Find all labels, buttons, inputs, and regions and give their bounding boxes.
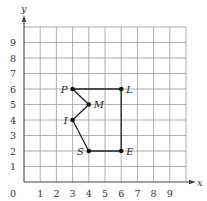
x-tick-label: 6 bbox=[118, 188, 124, 199]
y-tick-label: 6 bbox=[10, 84, 16, 95]
y-axis-arrow-icon bbox=[22, 15, 26, 22]
x-tick-labels: 123456789 bbox=[37, 188, 173, 199]
y-tick-labels: 123456789 bbox=[10, 37, 16, 172]
coordinate-grid-figure: x y 0 123456789 123456789 PLMISE bbox=[0, 0, 207, 201]
x-tick-label: 5 bbox=[102, 188, 108, 199]
axes: x y 0 bbox=[10, 3, 203, 199]
y-tick-label: 5 bbox=[10, 99, 16, 110]
y-tick-label: 2 bbox=[10, 146, 16, 157]
x-axis-label: x bbox=[197, 177, 203, 188]
x-tick-label: 1 bbox=[37, 188, 43, 199]
y-tick-label: 1 bbox=[10, 161, 16, 172]
x-axis-arrow-icon bbox=[189, 180, 196, 184]
x-tick-label: 4 bbox=[86, 188, 92, 199]
x-tick-label: 7 bbox=[134, 188, 140, 199]
point-e bbox=[119, 149, 124, 154]
y-tick-label: 4 bbox=[10, 115, 16, 126]
origin-label: 0 bbox=[10, 188, 16, 199]
x-tick-label: 2 bbox=[53, 188, 59, 199]
coordinate-plane: x y 0 123456789 123456789 PLMISE bbox=[0, 0, 207, 201]
point-label-p: P bbox=[60, 84, 68, 95]
point-label-m: M bbox=[93, 99, 105, 110]
point-l bbox=[119, 87, 124, 92]
point-label-l: L bbox=[125, 84, 133, 95]
x-tick-label: 9 bbox=[167, 188, 173, 199]
point-label-s: S bbox=[77, 146, 84, 157]
point-p bbox=[70, 87, 75, 92]
x-tick-label: 8 bbox=[151, 188, 157, 199]
grid-lines bbox=[24, 27, 186, 182]
y-tick-label: 7 bbox=[10, 68, 16, 79]
point-m bbox=[87, 102, 92, 107]
y-tick-label: 8 bbox=[10, 53, 16, 64]
y-tick-label: 3 bbox=[10, 130, 16, 141]
y-axis-label: y bbox=[20, 3, 27, 14]
point-s bbox=[87, 149, 92, 154]
y-tick-label: 9 bbox=[10, 37, 16, 48]
x-tick-label: 3 bbox=[70, 188, 76, 199]
point-label-e: E bbox=[125, 146, 134, 157]
point-i bbox=[70, 118, 75, 123]
